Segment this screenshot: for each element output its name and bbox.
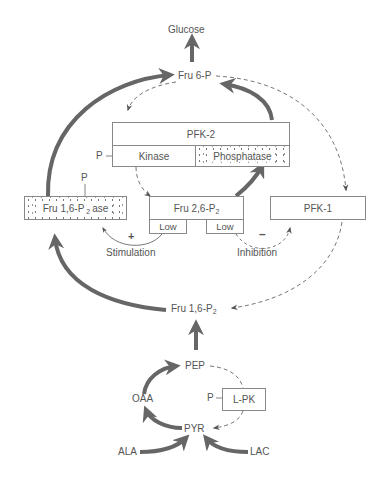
arrow-fru6p-to-pfk2 [128, 82, 176, 110]
low-right-label: Low [216, 221, 233, 232]
pyr-label: PYR [184, 423, 205, 435]
inhibition-sign: – [259, 228, 266, 240]
pfk1-box: PFK-1 [270, 196, 366, 220]
stimulation-sign: + [128, 230, 134, 242]
pfk1-label: PFK-1 [304, 203, 332, 214]
kinase-label: Kinase [139, 151, 170, 162]
fbpase-box: Fru 1,6-P2ase [24, 196, 127, 220]
arrow-pyr-to-oaa [146, 410, 182, 428]
phosphatase-label: Phosphatase [211, 151, 273, 162]
low-left-label: Low [159, 221, 176, 232]
lpk-label: L-PK [233, 394, 255, 405]
glucose-label: Glucose [168, 24, 205, 36]
arrow-lac-to-pyr [206, 438, 248, 452]
arrow-oaa-to-pep [144, 366, 176, 394]
fru6p-label: Fru 6-P [178, 70, 211, 82]
low-right-box: Low [206, 219, 244, 234]
fbpase-label: Fru 1,6-P2ase [39, 203, 113, 214]
pfk2-title: PFK-2 [187, 129, 215, 140]
phosphatase-domain: Phosphatase [195, 145, 290, 167]
pep-label: PEP [185, 360, 205, 372]
arrow-lpk-to-pyr [214, 411, 243, 428]
arrow-ala-to-pyr [140, 438, 186, 452]
fru26p2-label: Fru 2,6-P2 [174, 203, 220, 214]
stimulation-label: Stimulation [106, 247, 155, 259]
arrow-pep-to-lpk [210, 366, 243, 388]
ala-label: ALA [118, 446, 137, 458]
fru26p2-box: Fru 2,6-P2 [149, 196, 244, 220]
pfk2-box: PFK-2 [112, 122, 290, 146]
oaa-label: OAA [132, 393, 153, 405]
pfk2-phospho-label: P [96, 150, 103, 162]
inhibition-label: Inhibition [237, 247, 277, 259]
arrow-phosphatase-to-fru6p [224, 84, 272, 120]
fbpase-phospho-label: P [81, 172, 88, 184]
lpk-box: L-PK [222, 388, 266, 411]
lac-label: LAC [250, 446, 269, 458]
arrow-fru26p2-to-phosphatase [236, 166, 262, 196]
lpk-phospho-label: P [207, 392, 214, 404]
low-left-box: Low [149, 219, 187, 234]
arrow-kinase-to-fru26p2 [136, 167, 150, 196]
kinase-domain: Kinase [112, 145, 196, 167]
fru16p2-label: Fru 1,6-P2 [171, 303, 217, 315]
